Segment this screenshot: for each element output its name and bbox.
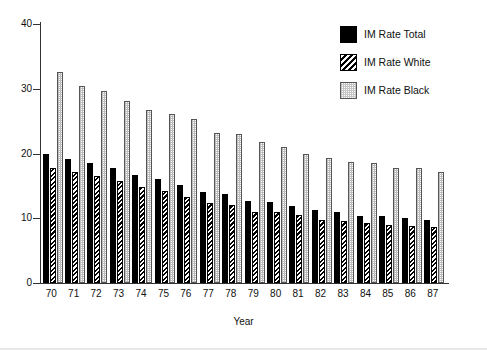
x-axis-tick-label: 87 <box>421 288 445 300</box>
bar <box>124 101 130 283</box>
bar <box>402 218 408 283</box>
bar <box>65 159 71 283</box>
x-axis-tick-label: 74 <box>129 288 153 300</box>
bar <box>357 216 363 283</box>
bar-group <box>110 24 132 283</box>
x-axis-tick-label: 84 <box>353 288 377 300</box>
bar <box>341 221 347 283</box>
legend-item-black: IM Rate Black <box>340 78 480 102</box>
bar <box>319 220 325 283</box>
bar <box>371 163 377 283</box>
bar <box>289 206 295 283</box>
bar <box>312 210 318 283</box>
bar <box>296 215 302 283</box>
bar <box>431 227 437 283</box>
bar <box>274 212 280 283</box>
legend-swatch-im-rate-black-icon <box>340 82 357 99</box>
x-axis-tick-label: 71 <box>62 288 86 300</box>
bar <box>281 147 287 283</box>
bar <box>348 162 354 283</box>
bar <box>50 168 56 283</box>
bar-group <box>132 24 154 283</box>
bar <box>267 202 273 283</box>
y-axis-tick-label: 30 <box>21 84 32 94</box>
legend-item-total: IM Rate Total <box>340 22 480 46</box>
x-axis-tick-label: 81 <box>286 288 310 300</box>
x-axis-tick-label: 75 <box>151 288 175 300</box>
bar-group <box>289 24 311 283</box>
x-axis-tick-label: 78 <box>219 288 243 300</box>
bar <box>184 197 190 283</box>
x-axis-tick-label: 80 <box>264 288 288 300</box>
bar <box>416 168 422 283</box>
legend-item-white: IM Rate White <box>340 50 480 74</box>
y-axis-tick-label: 0 <box>26 278 32 288</box>
bar <box>236 134 242 283</box>
bar <box>438 172 444 283</box>
bar-group <box>87 24 109 283</box>
bar <box>101 91 107 283</box>
bar <box>252 212 258 283</box>
bar <box>245 201 251 283</box>
bar-group <box>312 24 334 283</box>
x-axis-tick-label: 70 <box>39 288 63 300</box>
x-axis-tick-label: 83 <box>331 288 355 300</box>
y-axis-tick-label: 40 <box>21 19 32 29</box>
bar <box>72 172 78 283</box>
bar <box>200 192 206 283</box>
legend-label-black: IM Rate Black <box>364 84 429 96</box>
x-axis-tick-label: 72 <box>84 288 108 300</box>
bar-chart: 010203040 707172737475767778798081828384… <box>0 0 487 350</box>
bar <box>57 72 63 283</box>
x-axis-tick-label: 77 <box>196 288 220 300</box>
y-axis-tick-label: 10 <box>21 213 32 223</box>
bar-group <box>177 24 199 283</box>
x-axis-tick-label: 86 <box>398 288 422 300</box>
bar <box>155 179 161 283</box>
y-axis-tick <box>33 24 40 25</box>
legend-label-white: IM Rate White <box>364 56 431 68</box>
bar <box>79 86 85 283</box>
x-axis-tick-label: 85 <box>376 288 400 300</box>
bar <box>379 216 385 283</box>
y-axis-tick <box>33 154 40 155</box>
bar-group <box>155 24 177 283</box>
bar <box>222 194 228 283</box>
bar <box>191 119 197 283</box>
bar-group <box>65 24 87 283</box>
y-axis-tick <box>33 89 40 90</box>
x-axis-tick-label: 73 <box>107 288 131 300</box>
bar-group <box>267 24 289 283</box>
x-axis-tick-label: 79 <box>241 288 265 300</box>
bar <box>94 176 100 283</box>
bar <box>110 168 116 283</box>
bar <box>229 205 235 283</box>
bar <box>162 191 168 283</box>
bar <box>43 154 49 284</box>
bar <box>146 110 152 283</box>
legend-swatch-im-rate-white-icon <box>340 54 357 71</box>
x-axis-line <box>33 283 449 284</box>
chart-legend: IM Rate Total IM Rate White IM Rate Blac… <box>340 22 480 106</box>
bar <box>169 114 175 283</box>
bar <box>303 154 309 284</box>
bar <box>87 163 93 283</box>
bar-group <box>245 24 267 283</box>
legend-swatch-im-rate-total-icon <box>340 26 357 43</box>
bar-group <box>43 24 65 283</box>
bar <box>364 223 370 283</box>
bar <box>177 185 183 283</box>
y-axis-tick <box>33 218 40 219</box>
x-axis-tick-label: 76 <box>174 288 198 300</box>
x-axis-title: Year <box>0 316 487 327</box>
bar <box>386 225 392 283</box>
bar <box>259 142 265 283</box>
bar <box>393 168 399 283</box>
bar <box>139 187 145 283</box>
bar-group <box>222 24 244 283</box>
bar <box>326 158 332 283</box>
bar <box>409 226 415 283</box>
bar <box>207 203 213 283</box>
y-axis-tick <box>33 283 40 284</box>
bar-group <box>200 24 222 283</box>
